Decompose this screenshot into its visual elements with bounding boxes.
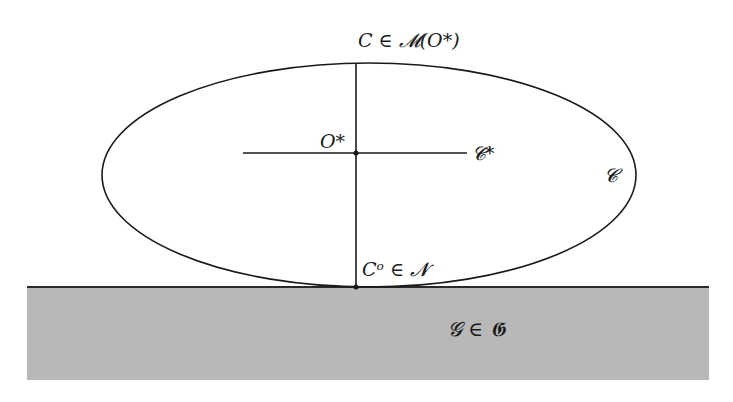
label-horizontal-axis: 𝓒* xyxy=(472,142,495,164)
label-top-point: C ∈ 𝓜(O*) xyxy=(358,29,460,51)
label-ellipse: 𝓒 xyxy=(604,164,623,186)
contact-point xyxy=(354,285,359,290)
ground-block xyxy=(27,287,709,380)
label-center: O* xyxy=(320,130,346,152)
label-ground: 𝓖 ∈ 𝕲 xyxy=(448,317,507,341)
center-point xyxy=(354,151,359,156)
diagram-canvas: C ∈ 𝓜(O*) O* 𝓒* 𝓒 Cᵒ ∈ 𝓝 𝓖 ∈ 𝕲 xyxy=(0,0,733,402)
ellipse-body xyxy=(102,63,636,287)
label-contact-point: Cᵒ ∈ 𝓝 xyxy=(362,258,434,280)
